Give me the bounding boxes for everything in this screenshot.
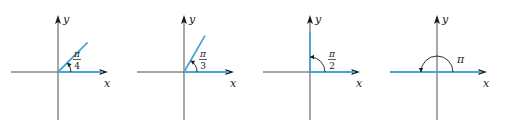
angle-label: π — [456, 53, 465, 66]
angle-label-denominator: 4 — [74, 61, 80, 71]
angle-arc — [310, 57, 325, 72]
x-axis-label: x — [356, 77, 363, 90]
angle-diagram-figure: xyπ4xyπ3xyπ2xyπ — [0, 0, 506, 132]
angle-panel-angle-pi-over-4: xyπ4 — [11, 13, 111, 120]
angle-label-denominator: 3 — [200, 61, 206, 71]
x-axis-label: x — [230, 77, 237, 90]
angle-label-numerator: π — [73, 49, 81, 59]
angle-label: π4 — [73, 49, 81, 71]
y-axis-label: y — [188, 13, 196, 26]
angle-panel-angle-pi-over-3: xyπ3 — [137, 13, 237, 120]
angle-panel-angle-pi: xyπ — [390, 13, 490, 120]
x-axis-label: x — [104, 77, 111, 90]
angle-label-denominator: 2 — [329, 61, 335, 71]
terminal-side-ray — [58, 42, 88, 72]
y-axis-label: y — [441, 13, 449, 26]
angle-label: π2 — [328, 49, 336, 71]
y-axis-label: y — [62, 13, 70, 26]
y-axis-label: y — [314, 13, 322, 26]
angle-label-numerator: π — [199, 49, 207, 59]
angle-label: π3 — [199, 49, 207, 71]
angle-panel-angle-pi-over-2: xyπ2 — [263, 13, 363, 120]
angle-label-numerator: π — [328, 49, 336, 59]
x-axis-label: x — [483, 77, 490, 90]
